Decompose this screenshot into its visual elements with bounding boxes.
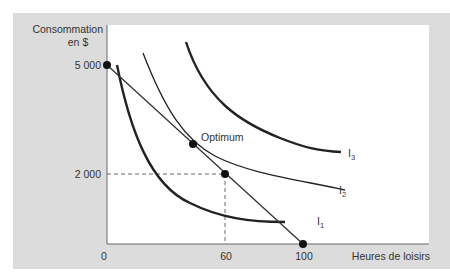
- point-100: [299, 240, 307, 248]
- optimum-label: Optimum: [201, 131, 244, 143]
- point-5000: [103, 61, 111, 69]
- y-axis-title-line1: Consommation: [32, 23, 103, 35]
- y-tick-2000: 2 000: [75, 168, 101, 180]
- y-axis-title-line2: en $: [68, 36, 89, 48]
- x-tick-100: 100: [295, 250, 313, 262]
- x-tick-0: 0: [101, 250, 107, 262]
- plot-area: [107, 25, 429, 244]
- point-60-2000: [221, 170, 229, 178]
- x-axis-title: Heures de loisirs: [352, 250, 430, 262]
- point-optimum: [189, 140, 197, 148]
- y-tick-5000: 5 000: [75, 59, 101, 71]
- x-tick-60: 60: [220, 250, 232, 262]
- indifference-chart: Consommation en $ 5 000 2 000 0 60 100 H…: [0, 0, 450, 276]
